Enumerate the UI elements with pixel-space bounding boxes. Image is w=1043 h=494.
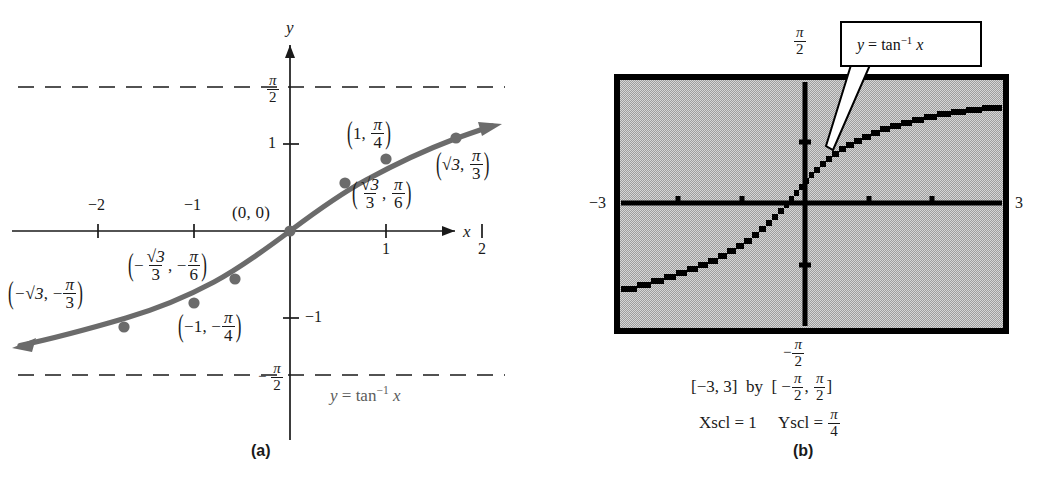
x-axis-label: x [463,222,471,242]
window-settings-scales: Xscl = 1 Yscl = π4 [699,408,841,440]
point-marker-neg-sqrt3-3 [229,273,240,284]
point-marker-one [380,153,391,164]
x-tick-label--2: −2 [88,196,105,214]
panel-a-svg [0,0,521,494]
callout-label-panel-b: y = tan−1 x [857,34,923,54]
x-tick-label-2: 2 [478,240,486,258]
point-marker-origin [284,225,295,236]
screen-label-bottom-neg-pi-over-2: −π2 [783,338,805,370]
x-tick-label-1: 1 [382,240,390,258]
point-label-neg-sqrt3-over-3: (−√33, −π6) [128,249,207,285]
screen-label-left--3: −3 [589,194,606,212]
point-label-neg-one: (−1, −π4) [178,310,242,346]
curve-arrowhead-left [12,338,36,352]
y-axis-arrowhead [285,45,295,58]
point-label-one: (1, π4) [347,117,391,153]
y-tick-label-1: 1 [268,134,276,152]
point-marker-sqrt3 [450,132,461,143]
caption-panel-a: (a) [251,442,271,460]
arctan-curve [20,126,492,346]
paren-open: ( [8,274,14,312]
point-marker-neg-sqrt3 [118,321,129,332]
y-axis-label: y [286,18,294,38]
panel-b-calculator: y = tan−1 x π2 −π2 −3 3 [−3, 3] by [ −π2… [521,0,1043,494]
minus-sign: − [258,368,266,384]
point-marker-neg-one [188,297,199,308]
fraction-pi-2: π 2 [267,73,279,105]
y-tick-label-neg-pi-over-2: − π 2 [258,362,284,394]
point-label-neg-sqrt3: (−√3, −π3) [8,277,83,313]
point-label-sqrt3-over-3: (√33, π6) [352,177,412,213]
caption-panel-b: (b) [793,442,813,460]
curve-arrowhead-right [478,122,502,136]
x-axis-arrowhead [442,226,455,236]
paren-close: ) [77,274,83,312]
point-marker-sqrt3-3 [339,177,350,188]
y-tick-label--1: −1 [305,308,322,326]
fraction-pi-2-neg: π 2 [271,361,283,393]
point-label-sqrt3: (√3, π3) [436,148,490,184]
screen-label-right-3: 3 [1015,194,1023,212]
window-settings-range: [−3, 3] by [ −π2, π2] [691,372,832,404]
x-tick-label--1: −1 [184,196,201,214]
point-label-origin: (0, 0) [232,203,270,223]
y-tick-label-pi-over-2: π 2 [266,74,280,106]
screen-label-top-pi-over-2: π2 [793,26,807,58]
figure-root: y x −2 −1 1 2 π 2 1 −1 − π 2 (−√3, −π3) [0,0,1043,494]
function-label-panel-a: y = tan−1 x [330,384,401,406]
panel-a-graph: y x −2 −1 1 2 π 2 1 −1 − π 2 (−√3, −π3) [0,0,521,494]
